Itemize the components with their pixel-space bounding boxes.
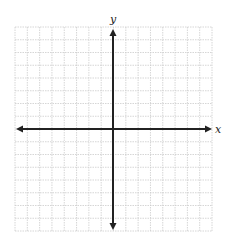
y-axis-up-arrow-icon	[110, 29, 117, 36]
y-axis-down-arrow-icon	[110, 223, 117, 230]
x-axis-left-arrow-icon	[16, 126, 23, 133]
y-axis-label: y	[109, 13, 117, 26]
x-axis-label: x	[215, 123, 222, 136]
coordinate-plane: x y	[0, 0, 229, 246]
x-axis-right-arrow-icon	[205, 126, 212, 133]
axes	[16, 29, 212, 230]
